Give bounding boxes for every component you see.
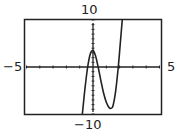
function-curve	[82, 6, 123, 114]
graph-window	[0, 0, 181, 133]
